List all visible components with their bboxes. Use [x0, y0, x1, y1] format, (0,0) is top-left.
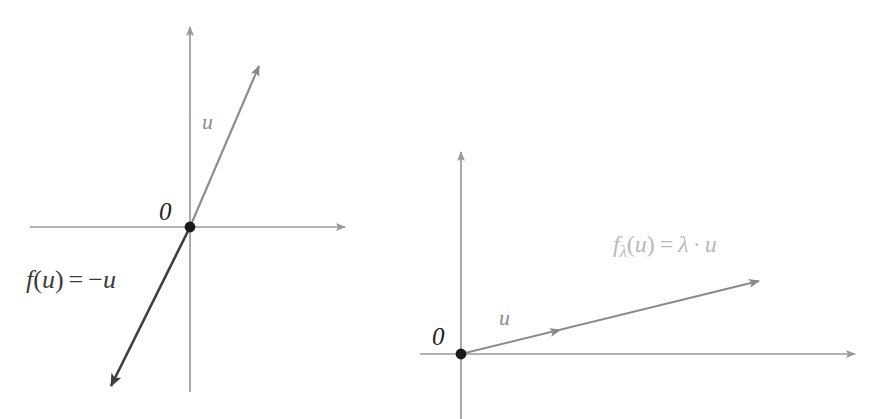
left-image-vector-negative-u [111, 227, 190, 386]
right-formula-f: f [613, 231, 620, 257]
left-formula-minus: − [88, 265, 103, 294]
left-origin-dot [185, 222, 196, 233]
right-origin-label: 0 [432, 323, 445, 351]
right-formula-lambda-subscript: λ [620, 242, 627, 261]
left-vector-u-label: u [202, 109, 213, 135]
right-vector-u-label: u [499, 305, 510, 331]
left-vector-u [190, 66, 259, 227]
right-formula-close-paren: ) [647, 231, 655, 257]
left-origin-label: 0 [159, 198, 172, 226]
right-formula-open-paren: ( [627, 231, 635, 257]
right-formula-label: fλ(u)=λ·u [613, 231, 717, 262]
left-formula-equals: = [69, 265, 84, 294]
right-formula-lambda: λ [678, 231, 688, 257]
right-formula-result: u [705, 231, 717, 257]
right-formula-dot: · [693, 231, 701, 257]
right-panel-group [420, 152, 855, 419]
left-formula-open-paren: ( [33, 265, 42, 294]
left-formula-label: f(u)=−u [26, 265, 116, 295]
left-panel-group [30, 27, 345, 392]
left-formula-arg: u [42, 265, 55, 294]
figure-svg [0, 0, 871, 419]
right-origin-dot [456, 349, 467, 360]
right-formula-equals: = [660, 231, 674, 257]
vector-transformation-figure: 0 u f(u)=−u 0 u fλ(u)=λ·u [0, 0, 871, 419]
right-formula-arg: u [635, 231, 647, 257]
left-formula-close-paren: ) [55, 265, 64, 294]
left-formula-result: u [103, 265, 116, 294]
